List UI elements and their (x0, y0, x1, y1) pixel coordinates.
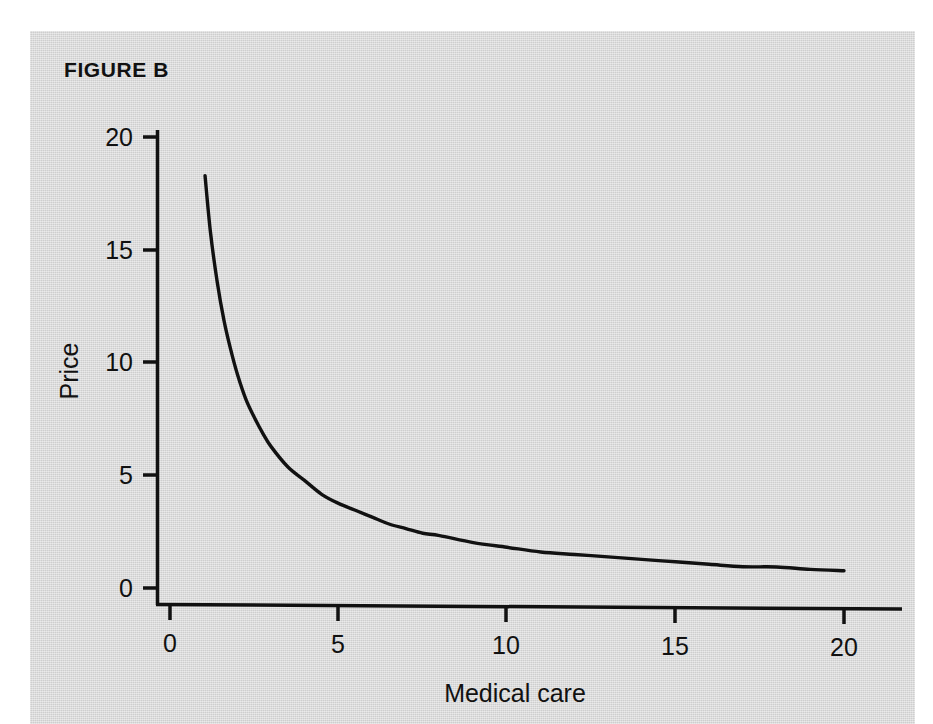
y-tick-label-15: 15 (105, 236, 133, 264)
figure-panel: FIGURE B 20 15 10 5 0 (30, 31, 915, 724)
x-axis-tick-labels: 0 5 10 15 20 (163, 629, 858, 661)
x-tick-label-5: 5 (331, 630, 345, 658)
x-tick-label-20: 20 (830, 633, 858, 661)
y-tick-label-0: 0 (119, 574, 133, 602)
figure-page: FIGURE B 20 15 10 5 0 (0, 0, 933, 724)
chart-plot: 20 15 10 5 0 0 5 10 15 20 (30, 31, 915, 724)
y-axis-ticks (143, 137, 157, 588)
y-tick-label-20: 20 (105, 123, 133, 151)
demand-curve-line (205, 176, 844, 571)
y-axis-title: Price (55, 343, 83, 400)
x-tick-label-0: 0 (163, 629, 177, 657)
x-tick-label-10: 10 (492, 631, 520, 659)
y-tick-label-10: 10 (105, 348, 133, 376)
y-tick-label-5: 5 (119, 461, 133, 489)
y-axis-tick-labels: 20 15 10 5 0 (105, 123, 133, 602)
x-axis-title: Medical care (444, 679, 586, 707)
x-axis-line (156, 605, 902, 610)
x-tick-label-15: 15 (661, 632, 689, 660)
